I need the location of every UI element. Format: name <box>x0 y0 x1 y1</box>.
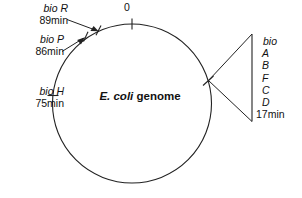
locus-label-bio-r: bio R 89min <box>6 3 68 26</box>
operon-gene-a: A <box>256 47 302 59</box>
locus-label-bio-p: bio P 86min <box>2 34 64 57</box>
bioR-leader <box>67 20 99 32</box>
genome-circle <box>53 24 212 183</box>
operon-gene-f: F <box>256 72 302 84</box>
locus-label-bio-h: bio H 75min <box>2 86 64 109</box>
locus-gene-bio-p: bio P <box>40 33 64 45</box>
operon-gene-c: C <box>256 84 302 96</box>
locus-position-bio-r: 89min <box>39 14 68 26</box>
operon-position: 17min <box>256 108 302 120</box>
locus-gene-bio-r: bio R <box>43 2 68 14</box>
locus-position-bio-h: 75min <box>35 97 64 109</box>
species-name: E. coli <box>99 90 133 102</box>
locus-gene-bio-h: bio H <box>39 85 64 97</box>
genome-center-label: E. coli genome <box>82 90 198 102</box>
genome-word: genome <box>133 90 180 102</box>
bio-operon-list: bio A B F C D 17min <box>256 35 302 120</box>
operon-gene-b: B <box>256 59 302 71</box>
operon-title: bio <box>256 35 302 47</box>
bioP-tick <box>84 32 89 42</box>
origin-label: 0 <box>124 2 130 14</box>
locus-position-bio-p: 86min <box>35 45 64 57</box>
operon-gene-d: D <box>256 96 302 108</box>
genome-map-figure: 0 bio R 89min bio P 86min bio H 75min E.… <box>0 0 302 198</box>
operon-expansion-wedge <box>209 34 253 122</box>
